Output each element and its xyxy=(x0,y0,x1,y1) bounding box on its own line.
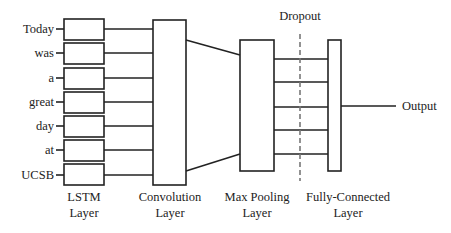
lstm-cell xyxy=(64,43,104,64)
fc-label-line1: Fully-Connected xyxy=(298,190,398,204)
lstm-cell xyxy=(64,164,104,185)
fully-connected-block xyxy=(328,40,341,171)
pool-label-line2: Layer xyxy=(217,206,297,220)
conv-pool-connector-top xyxy=(186,40,240,55)
input-word: was xyxy=(0,46,54,60)
input-word: a xyxy=(0,71,54,85)
convolution-block xyxy=(153,20,186,185)
lstm-cell xyxy=(64,140,104,161)
input-word: Today xyxy=(0,22,54,36)
input-word: day xyxy=(0,119,54,133)
conv-label-line1: Convolution xyxy=(130,190,210,204)
input-word: great xyxy=(0,95,54,109)
max-pooling-block xyxy=(240,40,274,171)
conv-pool-connector-bottom xyxy=(186,154,240,171)
output-label: Output xyxy=(402,99,437,113)
conv-label-line2: Layer xyxy=(130,206,210,220)
input-word: at xyxy=(0,143,54,157)
lstm-cell xyxy=(64,19,104,40)
lstm-cell xyxy=(64,92,104,113)
dropout-label: Dropout xyxy=(270,9,330,23)
pool-label-line1: Max Pooling xyxy=(217,190,297,204)
lstm-label-line2: Layer xyxy=(54,206,114,220)
fc-label-line2: Layer xyxy=(298,206,398,220)
lstm-label-line1: LSTM xyxy=(54,190,114,204)
input-word: UCSB xyxy=(0,168,54,182)
lstm-cell xyxy=(64,68,104,89)
lstm-cell xyxy=(64,116,104,137)
